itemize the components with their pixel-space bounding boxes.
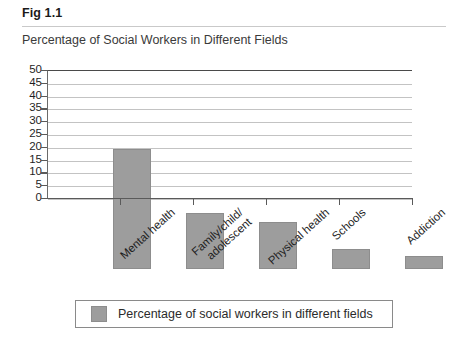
x-axis-line bbox=[47, 198, 413, 199]
bar bbox=[405, 256, 443, 269]
gridline bbox=[48, 122, 412, 123]
legend-swatch bbox=[91, 306, 107, 322]
figure-subtitle: Percentage of Social Workers in Differen… bbox=[22, 33, 288, 47]
gridline bbox=[48, 109, 412, 110]
gridline bbox=[48, 84, 412, 85]
figure-container: Fig 1.1 Percentage of Social Workers in … bbox=[0, 0, 467, 345]
x-axis-tick-mark bbox=[120, 198, 121, 205]
x-axis-tick-mark bbox=[193, 198, 194, 205]
bar bbox=[332, 249, 370, 270]
legend-label: Percentage of social workers in differen… bbox=[118, 307, 373, 321]
gridline bbox=[48, 97, 412, 98]
gridline bbox=[48, 135, 412, 136]
figure-label: Fig 1.1 bbox=[22, 6, 62, 20]
header-divider bbox=[22, 26, 446, 27]
x-axis-tick-mark bbox=[266, 198, 267, 205]
x-axis-tick-mark bbox=[412, 198, 413, 205]
y-axis-tick-marks bbox=[0, 70, 50, 198]
plot-area bbox=[47, 70, 412, 198]
legend: Percentage of social workers in differen… bbox=[75, 300, 393, 328]
x-axis-tick-mark bbox=[339, 198, 340, 205]
